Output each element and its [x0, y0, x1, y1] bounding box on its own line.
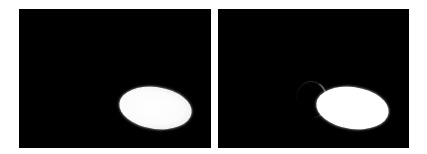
left-image-panel — [19, 9, 211, 148]
right-image-panel — [218, 9, 409, 148]
bright-ellipse — [116, 82, 194, 134]
